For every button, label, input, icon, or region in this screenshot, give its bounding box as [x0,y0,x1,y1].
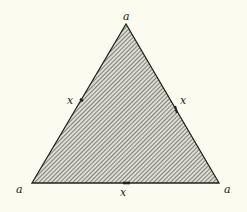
vertex-label-bottom-right: a [224,183,231,196]
triangle-diagram: a a a x x x [0,0,247,212]
diagram-canvas: a a a x x x [0,0,247,212]
vertex-label-top: a [123,10,130,23]
equilateral-triangle [32,24,219,183]
side-label-left: x [67,94,74,107]
side-label-right: x [180,94,187,107]
vertex-label-bottom-left: a [16,183,23,196]
side-label-bottom: x [120,186,127,199]
